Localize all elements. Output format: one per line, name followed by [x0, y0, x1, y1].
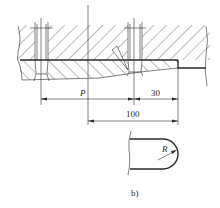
dim-overall: 100: [126, 109, 140, 119]
dimension-row-2: 100: [88, 109, 178, 123]
rounded-end-detail: R: [128, 131, 178, 175]
dim-pitch-label: P: [79, 88, 86, 98]
dimension-row-1: P 30: [41, 88, 178, 101]
dim-edge-distance: 30: [151, 88, 161, 98]
technical-drawing: P 30 100 R b): [0, 0, 220, 208]
radius-label: R: [161, 144, 168, 154]
figure-caption: b): [131, 188, 139, 198]
